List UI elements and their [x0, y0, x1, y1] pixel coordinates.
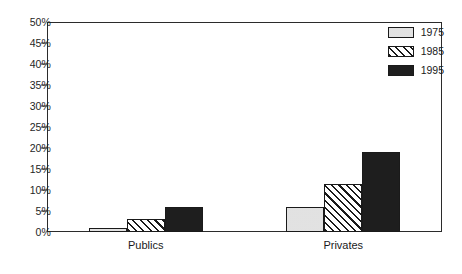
legend-swatch-icon [388, 27, 414, 38]
legend-swatch-icon [388, 46, 414, 57]
legend-item-1975: 1975 [388, 26, 444, 39]
bar-privates-1975 [286, 207, 324, 232]
y-axis-tick-mark [41, 106, 48, 107]
y-axis-tick-label: 0% [7, 226, 51, 238]
y-axis-tick-mark [41, 211, 48, 212]
y-axis-tick-mark [41, 190, 48, 191]
y-axis-tick-mark [41, 127, 48, 128]
y-axis-tick-mark [41, 85, 48, 86]
legend-label: 1975 [421, 27, 444, 38]
bar-publics-1975 [89, 228, 127, 232]
x-axis-group-label: Privates [323, 239, 363, 251]
y-axis-tick-mark [41, 64, 48, 65]
legend: 197519851995 [388, 26, 444, 77]
legend-item-1985: 1985 [388, 45, 444, 58]
y-axis-tick-label: 50% [7, 16, 51, 28]
bar-publics-1995 [165, 207, 203, 232]
legend-item-1995: 1995 [388, 64, 444, 77]
y-axis-tick-mark [41, 43, 48, 44]
legend-label: 1995 [421, 65, 444, 76]
bar-chart: 0%5%10%15%20%25%30%35%40%45%50% PublicsP… [0, 0, 462, 274]
legend-swatch-icon [388, 65, 414, 76]
bar-privates-1995 [362, 152, 400, 232]
legend-label: 1985 [421, 46, 444, 57]
x-axis-group-label: Publics [128, 239, 163, 251]
y-axis-tick-mark [41, 148, 48, 149]
y-axis-tick-mark [41, 169, 48, 170]
bar-privates-1985 [324, 184, 362, 232]
bar-publics-1985 [127, 219, 165, 232]
